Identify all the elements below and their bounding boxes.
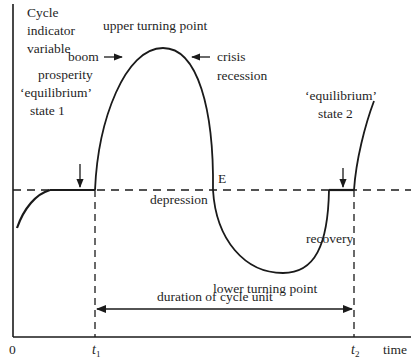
upper-turning-point-label: upper turning point — [103, 18, 207, 33]
equilibrium-1-label: ‘equilibrium’ — [20, 85, 92, 100]
t1-label: t1 — [92, 342, 100, 359]
recovery-label: recovery — [306, 231, 353, 246]
depression-label: depression — [150, 192, 208, 207]
boom-label: boom — [68, 49, 99, 64]
y-axis-label-line-2: indicator — [27, 23, 75, 38]
e-point-label: E — [218, 171, 226, 186]
crisis-label: crisis — [217, 49, 246, 64]
prosperity-label: prosperity — [38, 67, 93, 82]
state-2-label: state 2 — [318, 106, 353, 121]
state-1-label: state 1 — [30, 103, 65, 118]
t2-label: t2 — [351, 342, 359, 359]
duration-label: duration of cycle unit — [157, 289, 273, 304]
cycle-curve-initial — [17, 190, 50, 228]
y-axis-label-line-3: variable — [27, 41, 70, 56]
origin-label: 0 — [9, 342, 16, 357]
equilibrium-2-label: ‘equilibrium’ — [305, 88, 377, 103]
recession-label: recession — [217, 68, 267, 83]
y-axis-label-line-1: Cycle — [27, 5, 59, 20]
cycle-curve-upswing-downswing — [95, 48, 213, 190]
business-cycle-diagram: Cycle indicator variable upper turning p… — [0, 0, 411, 364]
cycle-curve-next-upswing — [354, 101, 374, 190]
x-axis-label: time — [383, 342, 407, 357]
